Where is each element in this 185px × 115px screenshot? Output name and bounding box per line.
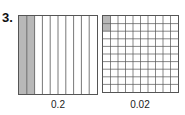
tenths-label: 0.2 xyxy=(28,99,88,110)
hundredths-label: 0.02 xyxy=(110,99,170,110)
hundredths-grid xyxy=(103,16,178,92)
tenths-grid xyxy=(19,16,97,94)
tenths-model xyxy=(18,15,98,95)
hundredths-model xyxy=(102,15,179,93)
problem-number: 3. xyxy=(2,10,13,25)
